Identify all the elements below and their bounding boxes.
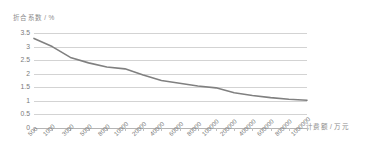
x-axis-title: 计费额 / 万元: [306, 121, 349, 131]
chart-container: 折合系数 / % 计费额 / 万元 3.532.521.510.50 50010…: [0, 0, 370, 162]
y-axis-tick-label: 2.5: [0, 57, 30, 64]
y-axis-tick-label: 1.5: [0, 84, 30, 91]
line-series-折合系数: [34, 33, 307, 128]
y-axis-tick-label: 3: [0, 43, 30, 50]
y-axis-tick-label: 3.5: [0, 30, 30, 37]
y-axis-tick-label: 1: [0, 97, 30, 104]
series-polyline: [34, 38, 307, 100]
y-axis-tick-label: 0: [0, 125, 30, 132]
y-axis-tick-label: 0.5: [0, 111, 30, 118]
gridline: [34, 128, 307, 129]
y-axis-title: 折合系数 / %: [13, 12, 55, 22]
y-axis-tick-label: 2: [0, 70, 30, 77]
y-axis-tick-labels: 3.532.521.510.50: [0, 33, 30, 128]
plot-area: [34, 33, 307, 128]
